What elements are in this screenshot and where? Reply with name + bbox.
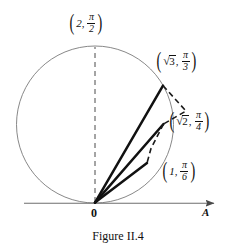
pi-symbol: π [180,160,188,171]
angle-fraction: π 3 [182,50,190,72]
paren-open: ( [162,162,167,181]
point-label-1-pi-over-6: ( 1, π 6 ) [161,160,197,182]
denominator: 2 [87,23,95,35]
denominator: 6 [180,171,188,183]
pi-symbol: π [87,12,95,23]
polar-figure: ( 2, π 2 ) ( √3 , π 3 [0,0,236,251]
paren-close: ) [191,52,196,71]
pi-symbol: π [195,110,203,121]
square-root: √2 [176,115,189,128]
angle-fraction: π 6 [180,160,188,182]
angle-fraction: π 2 [87,12,95,34]
dashed-bracket-lower [147,124,164,163]
denominator: 4 [195,121,203,133]
ray-pi-over-4 [95,124,164,203]
point-label-2-pi-over-2: ( 2, π 2 ) [68,12,104,34]
paren-open: ( [156,52,161,71]
paren-open: ( [169,112,174,131]
radicand: 2 [182,115,189,128]
paren-close: ) [190,162,195,181]
paren-close: ) [97,14,102,33]
radicand: 3 [169,55,176,68]
angle-fraction: π 4 [195,110,203,132]
ray-pi-over-6 [95,163,147,203]
origin-label: 0 [91,207,97,219]
paren-close: ) [204,112,209,131]
pi-symbol: π [182,50,190,61]
denominator: 3 [182,61,190,73]
point-label-sqrt2-pi-over-4: ( √2 , π 4 ) [168,110,211,132]
point-label-sqrt3-pi-over-3: ( √3 , π 3 ) [155,50,198,72]
square-root: √3 [163,55,176,68]
figure-caption: Figure II.4 [0,229,236,244]
axis-label: A [202,207,209,218]
paren-open: ( [69,14,74,33]
